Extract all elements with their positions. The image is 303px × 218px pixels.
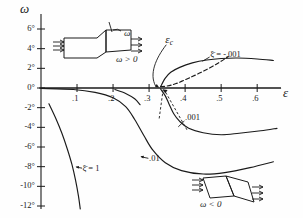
y-tick-label-1: 6°	[6, 24, 35, 33]
annotation-xi-bar-001-lower: .001	[185, 113, 200, 122]
x-tick-label-5: .5	[216, 94, 222, 103]
y-tick-label-4: 0°	[6, 83, 35, 92]
y-tick-label-8: -8°	[6, 162, 35, 171]
y-tick-label-9: -10°	[6, 181, 35, 190]
y-tick-label-10: -12°	[6, 201, 35, 210]
x-tick-label-4: .4	[180, 94, 186, 103]
curve-5	[49, 104, 80, 209]
inset-omega-negative-label: ω < 0	[200, 200, 221, 209]
plot-area	[0, 0, 303, 218]
annotation-xi-bar-1: ξ̄ = 1	[82, 164, 99, 173]
x-axis-label: ε	[283, 86, 288, 99]
annotation-epsilon-c: εc	[165, 34, 173, 47]
inset-neg-left-block	[203, 176, 234, 198]
annotation-xi-bar-01-lower: .01	[149, 154, 160, 163]
figure-canvas: ω ε .1.2.3.4.5.6 6°4°2°0°-2°-4°-6°-8°-10…	[0, 0, 303, 218]
x-tick-label-6: .6	[252, 94, 258, 103]
annotation-xi-bar-minus-001: ξ̄ = -.001	[210, 50, 241, 59]
inset-neg-right-block	[226, 176, 254, 202]
y-axis-label: ω	[20, 2, 29, 15]
curve-0	[161, 58, 274, 87]
annotation-epsilon-c-subscript: c	[170, 38, 173, 47]
y-tick-label-3: 2°	[6, 63, 35, 72]
y-tick-label-7: -6°	[6, 142, 35, 151]
pointer-dashed-b	[159, 90, 163, 119]
x-tick-label-3: .3	[144, 94, 150, 103]
arrowhead-xi-1	[76, 166, 79, 169]
arrowhead-xi-01	[140, 156, 144, 159]
inset-omega-positive-label: ω > 0	[116, 55, 137, 64]
curve-6	[115, 89, 140, 104]
y-tick-label-6: -4°	[6, 122, 35, 131]
x-tick-label-2: .2	[108, 94, 114, 103]
y-tick-label-2: 4°	[6, 44, 35, 53]
inset-pos-left-block	[64, 30, 106, 58]
inset-omega-tick-label: ω	[124, 29, 130, 38]
y-tick-label-5: -2°	[6, 103, 35, 112]
x-tick-label-1: .1	[72, 94, 78, 103]
